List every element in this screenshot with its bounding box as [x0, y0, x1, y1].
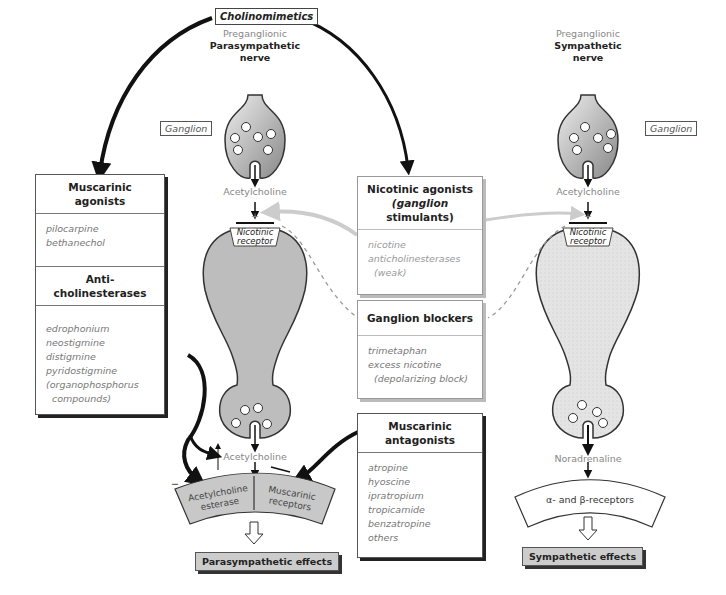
drug-item: edrophonium: [46, 322, 154, 336]
left-nerve-suffix: nerve: [225, 52, 285, 64]
drug-item: tropicamide: [368, 503, 472, 517]
left-postganglionic-neuron: [203, 223, 306, 474]
right-postganglionic-neuron: [536, 223, 639, 474]
sympathetic-effects: Sympathetic effects: [522, 547, 643, 566]
drug-item: distigmine: [46, 350, 154, 364]
drug-item: pyridostigmine: [46, 364, 154, 378]
right-preganglionic-label: Preganglionic: [548, 28, 628, 40]
drug-item: (weak): [368, 266, 472, 280]
header-line: agonists: [40, 194, 160, 208]
ganglion-tag-left: Ganglion: [160, 121, 212, 136]
header-line: Muscarinic: [40, 180, 160, 194]
drug-item: anticholinesterases: [368, 252, 472, 266]
down-arrow-parasympathetic: [245, 522, 263, 544]
ganglion-blockers-box: Ganglion blockers trimetaphan excess nic…: [357, 300, 483, 399]
minus-sign: −: [170, 478, 180, 490]
drug-item: compounds): [46, 392, 154, 406]
arrow-antagonists-to-muscarinic: [300, 432, 358, 478]
plus-sign-right: +: [583, 210, 593, 222]
right-ganglion-acetylcholine: Acetylcholine: [548, 186, 628, 198]
nicotinic-agonists-box: Nicotinic agonists (ganglion stimulants)…: [357, 176, 483, 295]
nicotinic-agonists-list: nicotine anticholinesterases (weak): [358, 230, 482, 294]
drug-item: (depolarizing block): [368, 372, 472, 386]
muscarinic-agonists-list: pilocarpine bethanechol: [36, 214, 164, 267]
header-line: Nicotinic agonists: [362, 182, 478, 196]
drug-item: nicotine: [368, 238, 472, 252]
adrenergic-receptors-label: α- and β-receptors: [540, 494, 640, 506]
nicotinic-agonists-header: Nicotinic agonists (ganglion stimulants): [358, 177, 482, 230]
muscarinic-antagonists-list: atropine hyoscine ipratropium tropicamid…: [358, 453, 482, 557]
drug-item: atropine: [368, 461, 472, 475]
drug-item: pilocarpine: [46, 222, 154, 236]
header-line: cholinesterases: [40, 286, 160, 300]
header-line: Anti-: [40, 272, 160, 286]
drug-item: ipratropium: [368, 489, 472, 503]
left-ganglion-acetylcholine: Acetylcholine: [215, 186, 295, 198]
nicotinic-label-line2: receptor: [563, 237, 613, 246]
right-terminal-noradrenaline: Noradrenaline: [548, 453, 628, 465]
muscarinic-agonists-box: Muscarinic agonists pilocarpine bethanec…: [35, 174, 165, 336]
drug-item: hyoscine: [368, 475, 472, 489]
header-line: (ganglion: [362, 196, 478, 210]
left-terminal-acetylcholine: Acetylcholine: [215, 451, 295, 463]
cholinomimetics-title: Cholinomimetics: [215, 8, 318, 25]
plus-sign-left: +: [250, 210, 260, 222]
left-preganglionic-label: Preganglionic: [215, 28, 295, 40]
ganglion-tag-right: Ganglion: [645, 121, 697, 136]
nicotinic-receptor-right: Nicotinic receptor: [563, 228, 613, 246]
drug-item: trimetaphan: [368, 344, 472, 358]
header-line: antagonists: [362, 433, 478, 447]
drug-item: benzatropine: [368, 517, 472, 531]
drug-item: bethanechol: [46, 236, 154, 250]
ganglion-blockers-header: Ganglion blockers: [358, 301, 482, 336]
drug-item: others: [368, 531, 472, 545]
parasympathetic-effects: Parasympathetic effects: [195, 552, 339, 571]
drug-item: excess nicotine: [368, 358, 472, 372]
arrow-antiche-to-ache: [184, 355, 205, 480]
anticholinesterases-header: Anti- cholinesterases: [36, 267, 164, 306]
muscarinic-antagonists-header: Muscarinic antagonists: [358, 414, 482, 453]
arrow-antiche-to-ach: [190, 435, 215, 455]
header-line: Muscarinic: [362, 419, 478, 433]
nicotinic-receptor-left: Nicotinic receptor: [230, 228, 280, 246]
muscarinic-agonists-header: Muscarinic agonists: [36, 175, 164, 214]
right-nerve-suffix: nerve: [558, 52, 618, 64]
header-line: stimulants): [362, 210, 478, 224]
arrow-to-nicotinic-agonists: [300, 18, 408, 168]
drug-item: neostigmine: [46, 336, 154, 350]
down-arrow-sympathetic: [579, 517, 597, 540]
right-nerve-name: Sympathetic: [538, 40, 638, 52]
arrow-to-muscarinic-agonists: [100, 18, 212, 172]
anticholinesterases-list: edrophonium neostigmine distigmine pyrid…: [35, 306, 165, 415]
drug-item: (organophosphorus: [46, 378, 154, 392]
header-line: Ganglion blockers: [362, 311, 478, 325]
nicotinic-label-line2: receptor: [230, 237, 280, 246]
muscarinic-antagonists-box: Muscarinic antagonists atropine hyoscine…: [357, 413, 483, 558]
ganglion-blockers-list: trimetaphan excess nicotine (depolarizin…: [358, 336, 482, 398]
left-nerve-name: Parasympathetic: [205, 40, 305, 52]
